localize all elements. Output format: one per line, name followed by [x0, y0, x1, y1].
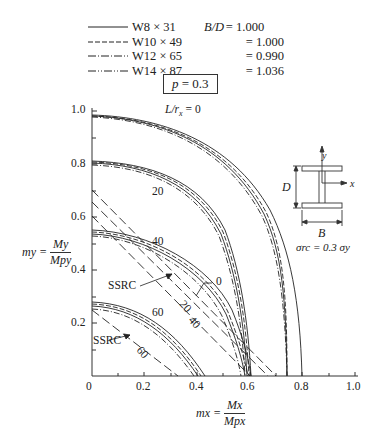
axial-load-box: p = 0.3 — [163, 74, 218, 94]
i-section-icon — [293, 146, 347, 226]
ytick-1.0: 1.0 — [71, 103, 85, 115]
label-ssrc-1: SSRC — [108, 279, 136, 291]
ratio-value: 1.000 — [256, 35, 284, 49]
xtick-0.2: 0.2 — [136, 380, 150, 392]
label-L40: 40 — [152, 235, 164, 247]
ytick-0.4: 0.4 — [71, 263, 85, 275]
x-label-fraction: Mx Mpx — [224, 398, 245, 429]
ratio-value: 1.036 — [256, 64, 284, 78]
p-value: = 0.3 — [182, 76, 209, 91]
label-ssrc-2: SSRC — [93, 334, 121, 346]
ytick-0.8: 0.8 — [71, 157, 85, 169]
y-label-num: My — [50, 237, 71, 253]
legend-label: W12 × 65 — [132, 49, 204, 64]
section-b-label: B — [318, 226, 325, 241]
x-axis-label: mx = Mx Mpx — [196, 398, 245, 429]
l-rx-text: L/r — [165, 103, 179, 115]
legend: W8 × 31 B/D = 1.000 W10 × 49 = 1.000 W12… — [88, 20, 284, 78]
dash-dot-dot-line-icon — [88, 67, 128, 75]
residual-stress-label: σrc = 0.3 σy — [296, 241, 350, 253]
label-L20: 20 — [152, 185, 164, 197]
dashed-line-icon — [88, 38, 128, 46]
x-label-lhs: mx = — [196, 406, 221, 420]
p-number: 0.3 — [192, 76, 208, 91]
legend-ratio-header: B/D — [204, 20, 224, 35]
ratio-value: 0.990 — [256, 49, 284, 63]
label-L60: 60 — [152, 306, 164, 318]
xtick-1.0: 1.0 — [346, 380, 360, 392]
legend-ratio-value: = 1.000 — [224, 20, 264, 35]
legend-item: W10 × 49 = 1.000 — [88, 35, 284, 50]
l-rx-zero: = 0 — [186, 103, 201, 115]
legend-item: W12 × 65 = 0.990 — [88, 49, 284, 64]
solid-line-icon — [88, 23, 128, 31]
xtick-0.8: 0.8 — [294, 380, 308, 392]
y-label-den: Mpy — [50, 253, 71, 268]
legend-ratio-value: = 0.990 — [204, 49, 284, 64]
y-label-lhs: my = — [22, 245, 47, 259]
section-y-label: y — [322, 150, 326, 161]
xtick-0.4: 0.4 — [189, 380, 203, 392]
y-label-fraction: My Mpy — [50, 237, 71, 268]
section-d-label: D — [282, 180, 291, 195]
x-label-den: Mpx — [224, 414, 245, 429]
label-ssrc-0: 0 — [216, 275, 222, 287]
legend-label: W10 × 49 — [132, 35, 204, 50]
ytick-0.6: 0.6 — [71, 210, 85, 222]
y-axis-label: my = My Mpy — [22, 237, 71, 268]
legend-item: W8 × 31 B/D = 1.000 — [88, 20, 284, 35]
p-label: p — [172, 76, 179, 91]
l-rx-sub: x — [179, 109, 183, 118]
x-label-num: Mx — [224, 398, 245, 414]
section-x-label: x — [350, 178, 354, 189]
label-L-over-rx: L/rx = 0 — [165, 103, 201, 118]
xtick-0.6: 0.6 — [240, 380, 254, 392]
legend-ratio-value: = 1.000 — [204, 35, 284, 50]
ytick-0.2: 0.2 — [71, 316, 85, 328]
ratio-value: 1.000 — [236, 20, 264, 34]
xtick-0: 0 — [86, 380, 92, 392]
legend-label: W8 × 31 — [132, 20, 204, 35]
dash-dot-line-icon — [88, 52, 128, 60]
